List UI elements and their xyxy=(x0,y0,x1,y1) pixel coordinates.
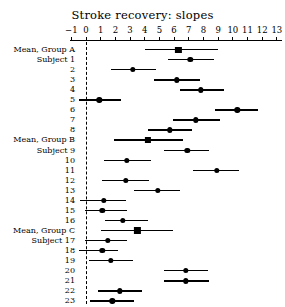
axis-tick-label: 0 xyxy=(83,25,88,35)
axis-tick-label: 10 xyxy=(227,25,238,35)
confidence-interval-line xyxy=(85,210,128,211)
page-title: Stroke recovery: slopes xyxy=(0,8,285,22)
axis-tick-label: 6 xyxy=(171,25,176,35)
axis-tick-label: 8 xyxy=(201,25,206,35)
subject-estimate-marker xyxy=(124,158,129,163)
confidence-interval-line xyxy=(105,220,148,221)
subject-estimate-marker xyxy=(117,288,122,293)
axis-tick-label: 11 xyxy=(242,25,253,35)
axis-tick-label: 3 xyxy=(127,25,132,35)
plot-rows: Mean, Group ASubject 12345678Mean, Group… xyxy=(0,44,285,307)
group-mean-marker xyxy=(175,47,181,53)
axis-tick-label: 2 xyxy=(113,25,118,35)
axis-tick xyxy=(100,37,101,41)
subject-estimate-marker xyxy=(130,67,135,72)
axis-tick xyxy=(218,37,219,41)
axis-line xyxy=(70,40,282,41)
axis-tick xyxy=(130,37,131,41)
axis-tick xyxy=(232,37,233,41)
subject-estimate-marker xyxy=(110,298,115,303)
x-axis: −1012345678910111213 xyxy=(0,26,285,42)
axis-tick-label: −1 xyxy=(65,25,78,35)
axis-tick-label: 1 xyxy=(98,25,103,35)
axis-tick xyxy=(159,37,160,41)
subject-estimate-marker xyxy=(193,117,198,122)
forest-plot: Stroke recovery: slopes −101234567891011… xyxy=(0,0,285,307)
subject-estimate-marker xyxy=(120,218,125,223)
subject-estimate-marker xyxy=(188,57,193,62)
row-label: 23 xyxy=(0,295,78,306)
group-mean-marker xyxy=(145,137,151,143)
axis-tick xyxy=(71,37,72,41)
axis-tick xyxy=(203,37,204,41)
subject-estimate-marker xyxy=(183,268,188,273)
subject-estimate-marker xyxy=(155,188,160,193)
axis-tick xyxy=(188,37,189,41)
subject-estimate-marker xyxy=(185,148,190,153)
axis-tick xyxy=(247,37,248,41)
axis-tick xyxy=(86,37,87,41)
axis-tick-label: 12 xyxy=(257,25,268,35)
subject-estimate-marker xyxy=(235,107,240,112)
axis-tick xyxy=(276,37,277,41)
axis-tick-label: 13 xyxy=(271,25,282,35)
subject-estimate-marker xyxy=(214,168,219,173)
axis-tick-label: 7 xyxy=(186,25,191,35)
subject-estimate-marker xyxy=(174,77,179,82)
subject-estimate-marker xyxy=(99,208,104,213)
axis-tick xyxy=(144,37,145,41)
subject-estimate-marker xyxy=(183,278,188,283)
subject-estimate-marker xyxy=(123,178,128,183)
axis-tick-label: 5 xyxy=(157,25,162,35)
axis-tick xyxy=(115,37,116,41)
axis-tick-label: 9 xyxy=(215,25,220,35)
subject-estimate-marker xyxy=(105,238,110,243)
axis-tick-label: 4 xyxy=(142,25,147,35)
axis-tick xyxy=(262,37,263,41)
axis-tick xyxy=(174,37,175,41)
subject-estimate-marker xyxy=(101,198,106,203)
subject-estimate-marker xyxy=(198,87,203,92)
plot-row: 23 xyxy=(0,295,285,306)
subject-estimate-marker xyxy=(97,97,102,102)
subject-estimate-marker xyxy=(99,248,104,253)
subject-estimate-marker xyxy=(167,127,172,132)
subject-estimate-marker xyxy=(108,258,113,263)
group-mean-marker xyxy=(134,227,140,233)
